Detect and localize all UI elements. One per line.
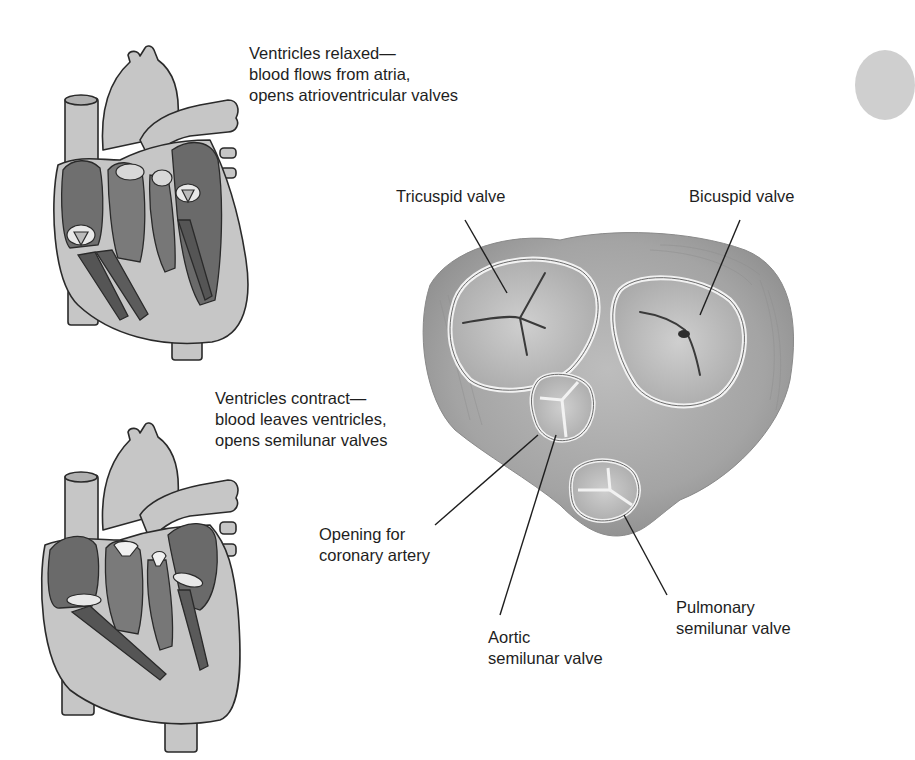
caption-line: Ventricles relaxed— bbox=[249, 43, 458, 64]
label-line: Opening for bbox=[319, 524, 430, 545]
caption-line: opens semilunar valves bbox=[215, 430, 387, 451]
label-tricuspid-valve: Tricuspid valve bbox=[396, 186, 505, 207]
caption-line: Ventricles contract— bbox=[215, 388, 387, 409]
caption-line: opens atrioventricular valves bbox=[249, 85, 458, 106]
label-pulmonary-semilunar-valve: Pulmonary semilunar valve bbox=[676, 597, 791, 639]
caption-ventricles-relaxed: Ventricles relaxed— blood flows from atr… bbox=[249, 43, 458, 106]
label-bicuspid-valve: Bicuspid valve bbox=[689, 186, 794, 207]
label-line: semilunar valve bbox=[676, 618, 791, 639]
caption-line: blood leaves ventricles, bbox=[215, 409, 387, 430]
caption-ventricles-contract: Ventricles contract— blood leaves ventri… bbox=[215, 388, 387, 451]
label-line: Tricuspid valve bbox=[396, 186, 505, 207]
label-line: semilunar valve bbox=[488, 648, 603, 669]
label-aortic-semilunar-valve: Aortic semilunar valve bbox=[488, 627, 603, 669]
label-coronary-opening: Opening for coronary artery bbox=[319, 524, 430, 566]
label-line: coronary artery bbox=[319, 545, 430, 566]
label-line: Aortic bbox=[488, 627, 603, 648]
label-line: Bicuspid valve bbox=[689, 186, 794, 207]
caption-line: blood flows from atria, bbox=[249, 64, 458, 85]
label-line: Pulmonary bbox=[676, 597, 791, 618]
